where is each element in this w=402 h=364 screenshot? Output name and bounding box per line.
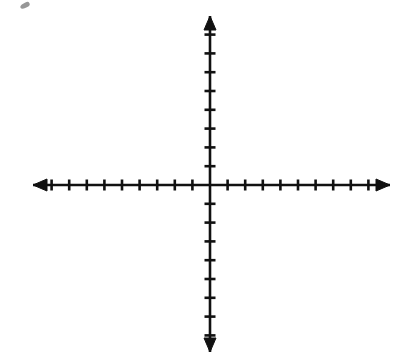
y-axis-arrowhead-up bbox=[204, 16, 216, 30]
x-axis-arrowhead-left bbox=[33, 179, 47, 191]
x-axis-arrowhead-right bbox=[376, 179, 390, 191]
y-axis-arrowhead-down bbox=[204, 338, 216, 352]
axes-canvas bbox=[0, 0, 402, 364]
coordinate-plane-figure bbox=[0, 0, 402, 364]
